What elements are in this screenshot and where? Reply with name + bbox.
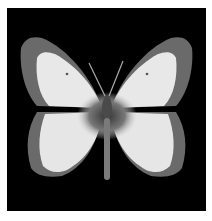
- thorax: [102, 96, 112, 120]
- abdomen: [104, 118, 110, 180]
- wing-spot: [146, 73, 149, 76]
- butterfly-illustration: [7, 8, 206, 211]
- specimen-photo: [7, 8, 206, 211]
- wing-spot: [66, 73, 69, 76]
